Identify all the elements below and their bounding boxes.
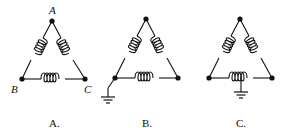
node-right — [175, 75, 180, 80]
delta-figure-b: B. — [101, 16, 181, 129]
coil-bottom — [115, 72, 178, 81]
coil-bc — [22, 73, 85, 82]
caption-b: B. — [142, 117, 152, 129]
delta-figure-a: A B C A. — [11, 4, 92, 129]
vertex-label-a: A — [48, 4, 56, 16]
vertex-label-c: C — [84, 83, 92, 95]
node-right — [269, 75, 274, 80]
node-b — [19, 76, 24, 81]
ground-symbol — [234, 76, 248, 98]
coil-left — [209, 19, 240, 78]
node-left — [206, 75, 211, 80]
coil-ac — [52, 21, 85, 79]
node-top — [143, 16, 148, 21]
node-left — [112, 75, 117, 80]
coil-right — [240, 19, 272, 78]
coil-right — [146, 19, 178, 78]
node-a — [49, 18, 54, 23]
coil-ab — [22, 21, 52, 79]
node-c — [82, 76, 87, 81]
node-top — [237, 16, 242, 21]
coil-left — [115, 19, 146, 78]
caption-c: C. — [236, 117, 246, 129]
caption-a: A. — [49, 117, 60, 129]
vertex-label-b: B — [11, 83, 18, 95]
ground-symbol — [101, 78, 115, 103]
delta-figure-c: C. — [206, 16, 274, 129]
